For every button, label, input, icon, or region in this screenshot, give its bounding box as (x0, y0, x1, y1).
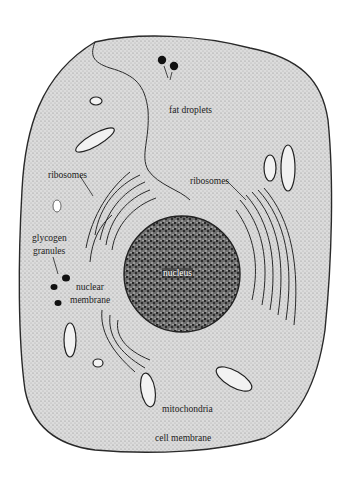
vacuole (53, 200, 61, 212)
cell-diagram: fat droplets ribosomes ribosomes glycoge… (0, 0, 347, 478)
label-nuclear-line1: nuclear (76, 282, 104, 292)
label-fat-droplets: fat droplets (169, 105, 212, 115)
label-mitochondria: mitochondria (162, 404, 213, 414)
label-glycogen-line1: glycogen (32, 233, 67, 243)
label-cell-membrane: cell membrane (155, 433, 211, 443)
label-nuclear-line2: membrane (70, 295, 110, 305)
label-ribosomes-left: ribosomes (48, 170, 87, 180)
label-glycogen-line2: granules (33, 246, 65, 256)
label-nucleus: nucleus (162, 268, 193, 278)
label-ribosomes-right: ribosomes (190, 176, 229, 186)
